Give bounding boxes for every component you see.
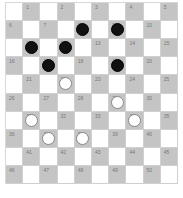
board-square[interactable]: 42 (58, 148, 75, 166)
square-number: 21 (26, 77, 32, 82)
board-square[interactable]: 10 (144, 21, 161, 39)
board-square-light (75, 112, 92, 130)
board-square[interactable]: 33 (92, 112, 109, 130)
board-square[interactable]: 21 (23, 75, 40, 93)
board-square[interactable]: 36 (6, 130, 23, 148)
board-square[interactable]: 27 (40, 94, 57, 112)
white-piece[interactable] (128, 114, 141, 127)
board-square-light (6, 112, 23, 130)
black-piece[interactable] (111, 23, 124, 36)
board-square[interactable]: 32 (58, 112, 75, 130)
board-square[interactable]: 30 (144, 94, 161, 112)
board-square[interactable]: 6 (6, 21, 23, 39)
board-square[interactable]: 40 (144, 130, 161, 148)
board-square[interactable]: 23 (92, 75, 109, 93)
square-number: 3 (95, 5, 98, 10)
board-square-light (144, 148, 161, 166)
board-square[interactable]: 22 (58, 75, 75, 93)
square-number: 39 (112, 132, 118, 137)
board-square-light (23, 166, 40, 184)
square-number: 13 (95, 41, 101, 46)
board-square[interactable]: 11 (23, 39, 40, 57)
board-square[interactable]: 44 (126, 148, 143, 166)
board-square-light (126, 57, 143, 75)
square-number: 30 (147, 96, 153, 101)
board-square[interactable]: 18 (75, 57, 92, 75)
square-number: 16 (9, 59, 15, 64)
square-number: 1 (26, 5, 29, 10)
board-square[interactable]: 2 (58, 3, 75, 21)
board-square-light (126, 130, 143, 148)
board-square[interactable]: 47 (40, 166, 57, 184)
board-square[interactable]: 39 (109, 130, 126, 148)
board-square[interactable]: 16 (6, 57, 23, 75)
black-piece[interactable] (59, 41, 72, 54)
white-piece[interactable] (42, 132, 55, 145)
board-square-light (23, 94, 40, 112)
board-square[interactable]: 24 (126, 75, 143, 93)
board-square[interactable]: 4 (126, 3, 143, 21)
white-piece[interactable] (111, 96, 124, 109)
board-square[interactable]: 41 (23, 148, 40, 166)
board-square-light (23, 57, 40, 75)
white-piece[interactable] (59, 77, 72, 90)
black-piece[interactable] (111, 59, 124, 72)
board-square[interactable]: 26 (6, 94, 23, 112)
board-square[interactable]: 34 (126, 112, 143, 130)
black-piece[interactable] (25, 41, 38, 54)
board-square[interactable]: 13 (92, 39, 109, 57)
board-square-light (6, 148, 23, 166)
board-square-light (58, 57, 75, 75)
square-number: 46 (9, 168, 15, 173)
board-square-light (40, 3, 57, 21)
board-square[interactable]: 14 (126, 39, 143, 57)
board-square[interactable]: 28 (75, 94, 92, 112)
board-square-light (109, 148, 126, 166)
square-number: 49 (112, 168, 118, 173)
board-square-light (6, 3, 23, 21)
board-square[interactable]: 31 (23, 112, 40, 130)
board-square[interactable]: 1 (23, 3, 40, 21)
board-square[interactable]: 12 (58, 39, 75, 57)
board-square[interactable]: 7 (40, 21, 57, 39)
square-number: 32 (61, 114, 67, 119)
board-square[interactable]: 38 (75, 130, 92, 148)
board-square-light (126, 94, 143, 112)
board-square[interactable]: 48 (75, 166, 92, 184)
square-number: 35 (164, 114, 170, 119)
board-square[interactable]: 20 (144, 57, 161, 75)
square-number: 44 (129, 150, 135, 155)
board-square[interactable]: 50 (144, 166, 161, 184)
square-number: 7 (43, 23, 46, 28)
white-piece[interactable] (76, 132, 89, 145)
board-square[interactable]: 25 (161, 75, 178, 93)
board-square[interactable]: 19 (109, 57, 126, 75)
square-number: 10 (147, 23, 153, 28)
board-square[interactable]: 9 (109, 21, 126, 39)
board-square[interactable]: 15 (161, 39, 178, 57)
black-piece[interactable] (42, 59, 55, 72)
board-square-light (92, 21, 109, 39)
white-piece[interactable] (25, 114, 38, 127)
board-square-light (58, 166, 75, 184)
board-square[interactable]: 8 (75, 21, 92, 39)
board-square[interactable]: 45 (161, 148, 178, 166)
board-square-light (109, 112, 126, 130)
board-square[interactable]: 46 (6, 166, 23, 184)
board-square[interactable]: 35 (161, 112, 178, 130)
board-square-light (92, 130, 109, 148)
board-square-light (161, 57, 178, 75)
board-square[interactable]: 43 (92, 148, 109, 166)
black-piece[interactable] (76, 23, 89, 36)
square-number: 48 (78, 168, 84, 173)
square-number: 5 (164, 5, 167, 10)
board-square[interactable]: 37 (40, 130, 57, 148)
board-square[interactable]: 3 (92, 3, 109, 21)
square-number: 33 (95, 114, 101, 119)
board-square-light (75, 39, 92, 57)
square-number: 6 (9, 23, 12, 28)
board-square[interactable]: 17 (40, 57, 57, 75)
board-square[interactable]: 29 (109, 94, 126, 112)
board-square[interactable]: 5 (161, 3, 178, 21)
board-square[interactable]: 49 (109, 166, 126, 184)
